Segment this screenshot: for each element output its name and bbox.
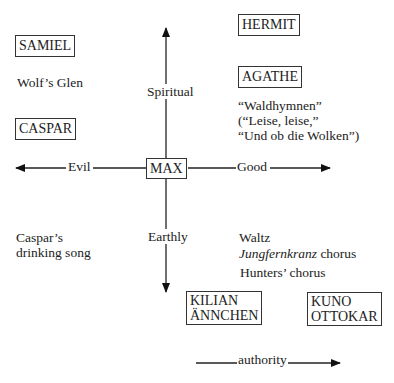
waldhymnen-line2: (“Leise, leise,” bbox=[238, 113, 359, 128]
evil-label: Evil bbox=[66, 159, 93, 174]
annchen-label: ÄNNCHEN bbox=[190, 308, 258, 323]
waldhymnen-text: “Waldhymnen” (“Leise, leise,” “Und ob di… bbox=[238, 98, 359, 143]
hermit-box: HERMIT bbox=[238, 14, 300, 36]
caspars-song-line2: drinking song bbox=[16, 245, 91, 260]
agathe-box: AGATHE bbox=[238, 66, 302, 88]
waldhymnen-line3: “Und ob die Wolken”) bbox=[238, 128, 359, 143]
jungfernkranz-chorus-text: Jungfernkranz chorus bbox=[239, 246, 356, 261]
max-box: MAX bbox=[146, 158, 187, 179]
caspars-drinking-song-text: Caspar’s drinking song bbox=[16, 230, 91, 260]
good-label: Good bbox=[236, 159, 270, 174]
kuno-ottokar-box: KUNO OTTOKAR bbox=[307, 292, 382, 326]
waldhymnen-line1: “Waldhymnen” bbox=[238, 98, 359, 113]
samiel-box: SAMIEL bbox=[15, 35, 75, 57]
earthly-label: Earthly bbox=[146, 229, 190, 244]
jungfernkranz-rest: chorus bbox=[317, 246, 356, 261]
spiritual-label: Spiritual bbox=[145, 84, 196, 99]
hunters-chorus-text: Hunters’ chorus bbox=[240, 265, 326, 280]
ottokar-label: OTTOKAR bbox=[311, 309, 378, 324]
kuno-label: KUNO bbox=[311, 294, 378, 309]
kilian-label: KILIAN bbox=[190, 293, 258, 308]
waltz-text: Waltz bbox=[239, 230, 270, 245]
caspars-song-line1: Caspar’s bbox=[16, 230, 91, 245]
authority-label: authority bbox=[237, 352, 288, 367]
kilian-annchen-box: KILIAN ÄNNCHEN bbox=[186, 291, 262, 325]
caspar-box: CASPAR bbox=[15, 118, 76, 140]
wolfs-glen-text: Wolf’s Glen bbox=[17, 75, 83, 90]
jungfernkranz-italic: Jungfernkranz bbox=[239, 246, 317, 261]
